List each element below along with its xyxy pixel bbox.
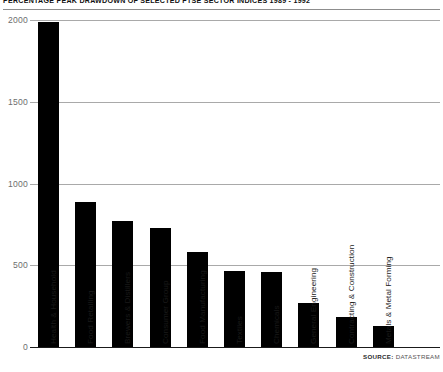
source-value: DATASTREAM (396, 353, 440, 360)
bar-category-label: Textiles (235, 316, 245, 344)
title-divider (3, 9, 440, 10)
bar-category-label: Metals & Metal Forming (384, 256, 394, 344)
bar-category-label: Brewers & Distillers (123, 272, 133, 344)
bar-group: Metals & Metal Forming (373, 20, 394, 347)
chart-title: PERCENTAGE PEAK DRAWDOWN OF SELECTED FTS… (3, 0, 440, 6)
bar-group: Brewers & Distillers (112, 20, 133, 347)
bar-group: Chemicals (261, 20, 282, 347)
bar-group: General Engineering (298, 20, 319, 347)
bar-category-label: Contracting & Construction (347, 245, 357, 344)
y-tick-label-500: 500 (2, 261, 28, 270)
bar-category-label: Chemicals (272, 305, 282, 344)
source-note: SOURCE: DATASTREAM (363, 353, 440, 360)
y-tick-label-2000: 2000 (2, 16, 28, 25)
bar-group: Contracting & Construction (336, 20, 357, 347)
bar-category-label: Consumer Group (161, 281, 171, 344)
y-tick-label-1000: 1000 (2, 179, 28, 188)
bar-group: Health & Household (38, 20, 59, 347)
bar-category-label: Food Manufacturing (198, 270, 208, 344)
y-tick-label-1500: 1500 (2, 97, 28, 106)
bar-group: Textiles (224, 20, 245, 347)
bar-group: Food Retailing (75, 20, 96, 347)
bar-category-label: Food Retailing (86, 290, 96, 344)
y-tick-label-0: 0 (2, 343, 28, 352)
x-axis-baseline (30, 347, 440, 348)
bar-group: Food Manufacturing (187, 20, 208, 347)
y-axis: 0500100015002000 (0, 0, 28, 372)
plot-area: Health & HouseholdFood RetailingBrewers … (30, 20, 440, 347)
chart-figure: PERCENTAGE PEAK DRAWDOWN OF SELECTED FTS… (0, 0, 443, 372)
bar-group: Consumer Group (150, 20, 171, 347)
bar-category-label: Health & Household (49, 270, 59, 344)
source-label: SOURCE: (363, 353, 394, 360)
bar-category-label: General Engineering (309, 268, 319, 344)
